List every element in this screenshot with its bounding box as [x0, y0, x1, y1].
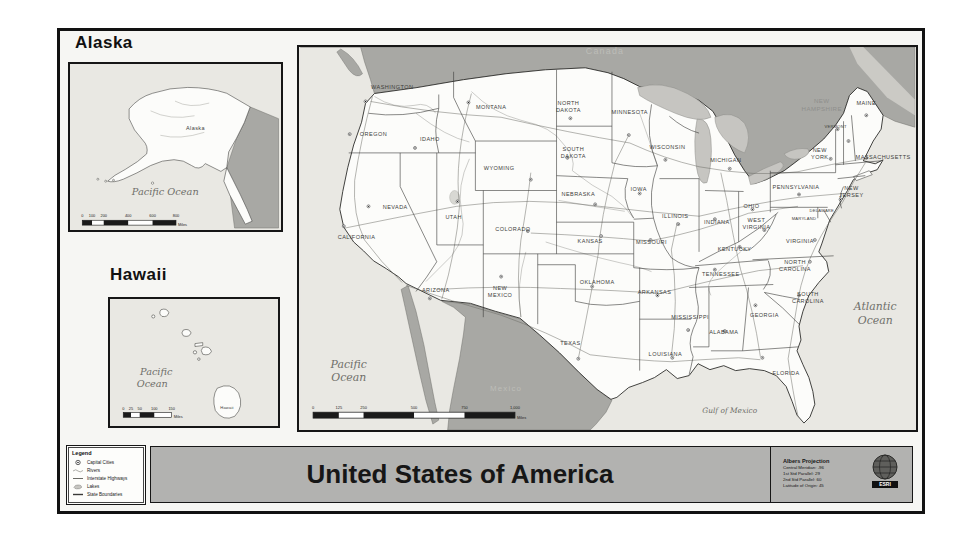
- svg-text:25: 25: [129, 406, 133, 411]
- map-document: Alaska Alaska Pacific Ocean 0 100 200 40…: [0, 0, 975, 544]
- state-label: OREGON: [360, 131, 387, 137]
- state-label: MAINE: [856, 100, 876, 106]
- svg-text:Miles: Miles: [178, 222, 187, 227]
- svg-text:400: 400: [125, 213, 132, 218]
- state-label: VIRGINIA: [786, 238, 814, 244]
- state-label: TEXAS: [560, 340, 580, 346]
- esri-logo-text: ESRI: [879, 481, 891, 487]
- state-label: CAROLINA: [779, 266, 811, 272]
- state-label: MEXICO: [488, 292, 513, 298]
- legend-item-lakes: Lakes: [72, 482, 140, 490]
- state-label: ILLINOIS: [662, 213, 688, 219]
- alaska-state-label: Alaska: [186, 125, 206, 131]
- svg-text:250: 250: [360, 405, 367, 410]
- state-label: NEBRASKA: [561, 191, 595, 197]
- lake-polygon-symbol: [72, 483, 84, 490]
- state-label: FLORIDA: [773, 370, 800, 376]
- atlantic-ocean-label-2: Ocean: [858, 314, 893, 327]
- svg-text:50: 50: [138, 406, 142, 411]
- state-label: UTAH: [445, 214, 461, 220]
- state-label: ARIZONA: [422, 287, 450, 293]
- state-label: TENNESSEE: [702, 271, 740, 277]
- state-label: MASSACHUSETTS: [856, 154, 911, 160]
- svg-text:800: 800: [173, 213, 180, 218]
- state-label: VIRGINIA: [743, 224, 771, 230]
- state-label: NEW: [493, 285, 508, 291]
- svg-text:100: 100: [151, 406, 157, 411]
- alaska-pacific-ocean-label: Pacific Ocean: [131, 186, 199, 197]
- state-label: NEVADA: [383, 204, 408, 210]
- canada-label: Canada: [586, 47, 624, 56]
- state-label: MICHIGAN: [710, 157, 741, 163]
- atlantic-ocean-label-1: Atlantic: [853, 300, 897, 313]
- state-label: IDAHO: [420, 136, 440, 142]
- state-label: YORK: [811, 154, 828, 160]
- svg-text:1,000: 1,000: [510, 405, 521, 410]
- legend: Legend Capital Cities Rivers Interstate …: [66, 445, 146, 505]
- river-line-symbol: [72, 467, 84, 474]
- hawaii-inset-map: Pacific Ocean Hawaii 0 25 50 100 150 Mil…: [108, 297, 280, 428]
- state-label: DELAWARE: [810, 208, 835, 213]
- state-label: NEW: [814, 97, 830, 104]
- hawaii-pacific-label-2: Ocean: [137, 378, 168, 389]
- state-label: DAKOTA: [556, 107, 581, 113]
- pacific-ocean-label-2: Ocean: [331, 371, 366, 384]
- state-label: NEW: [844, 186, 859, 192]
- projection-latitude-origin: Latitude of Origin: 45: [783, 483, 863, 489]
- state-label: OKLAHOMA: [580, 279, 615, 285]
- globe-icon: ESRI: [868, 452, 904, 492]
- state-label: ARKANSAS: [638, 289, 672, 295]
- state-label: WYOMING: [484, 165, 515, 171]
- svg-text:500: 500: [411, 405, 418, 410]
- svg-text:100: 100: [89, 213, 96, 218]
- state-label: LOUISIANA: [649, 351, 683, 357]
- svg-text:750: 750: [461, 405, 468, 410]
- state-label: MONTANA: [476, 104, 506, 110]
- map-title: United States of America: [150, 446, 770, 503]
- legend-title: Legend: [72, 450, 140, 456]
- state-label: GEORGIA: [750, 312, 779, 318]
- legend-item-interstate-highways: Interstate Highways: [72, 474, 140, 482]
- legend-item-rivers: Rivers: [72, 466, 140, 474]
- state-label: NEW: [813, 147, 828, 153]
- svg-text:600: 600: [149, 213, 156, 218]
- state-label: MARYLAND: [792, 216, 817, 221]
- svg-text:200: 200: [100, 213, 107, 218]
- state-label: HAMPSHIRE: [802, 105, 842, 112]
- highway-line-symbol: [72, 475, 84, 482]
- state-label: ALABAMA: [709, 329, 738, 335]
- hawaii-inset-title: Hawaii: [110, 265, 167, 285]
- state-label: NORTH: [784, 259, 806, 265]
- state-label: VERMONT: [825, 124, 847, 129]
- state-label: CAROLINA: [792, 298, 824, 304]
- state-label: IOWA: [631, 186, 647, 192]
- state-label: SOUTH: [797, 291, 819, 297]
- hawaii-ocean: [111, 299, 278, 426]
- state-label: INDIANA: [704, 219, 730, 225]
- main-map-svg: Canada Mexico Pacific Ocean Atlantic Oce…: [299, 47, 916, 430]
- state-label: DAKOTA: [561, 153, 586, 159]
- alaska-inset-svg: Alaska Pacific Ocean 0 100 200 400 600 8…: [70, 64, 281, 230]
- hawaii-inset-svg: Pacific Ocean Hawaii 0 25 50 100 150 Mil…: [110, 299, 278, 426]
- state-label: WISCONSIN: [649, 144, 685, 150]
- state-label: JERSEY: [839, 192, 863, 198]
- legend-item-state-boundaries: State Boundaries: [72, 490, 140, 498]
- boundary-line-symbol: [72, 491, 84, 498]
- projection-info: Albers Projection Central Meridian: -96 …: [783, 458, 863, 489]
- svg-text:125: 125: [336, 405, 343, 410]
- gulf-of-mexico-label: Gulf of Mexico: [702, 406, 757, 415]
- band-divider: [770, 446, 771, 503]
- projection-title: Albers Projection: [783, 458, 863, 464]
- pacific-ocean-label-1: Pacific: [330, 358, 367, 371]
- main-map: Canada Mexico Pacific Ocean Atlantic Oce…: [297, 45, 918, 432]
- alaska-inset-title: Alaska: [75, 33, 133, 53]
- state-label: OHIO: [744, 203, 760, 209]
- mexico-label: Mexico: [490, 384, 522, 393]
- capital-city-symbol: [72, 459, 84, 466]
- svg-text:Miles: Miles: [174, 414, 183, 419]
- state-label: MISSISSIPPI: [671, 314, 709, 320]
- state-label: WASHINGTON: [371, 84, 413, 90]
- svg-text:Miles: Miles: [517, 415, 526, 420]
- state-label: COLORADO: [495, 226, 530, 232]
- legend-item-capital-cities: Capital Cities: [72, 458, 140, 466]
